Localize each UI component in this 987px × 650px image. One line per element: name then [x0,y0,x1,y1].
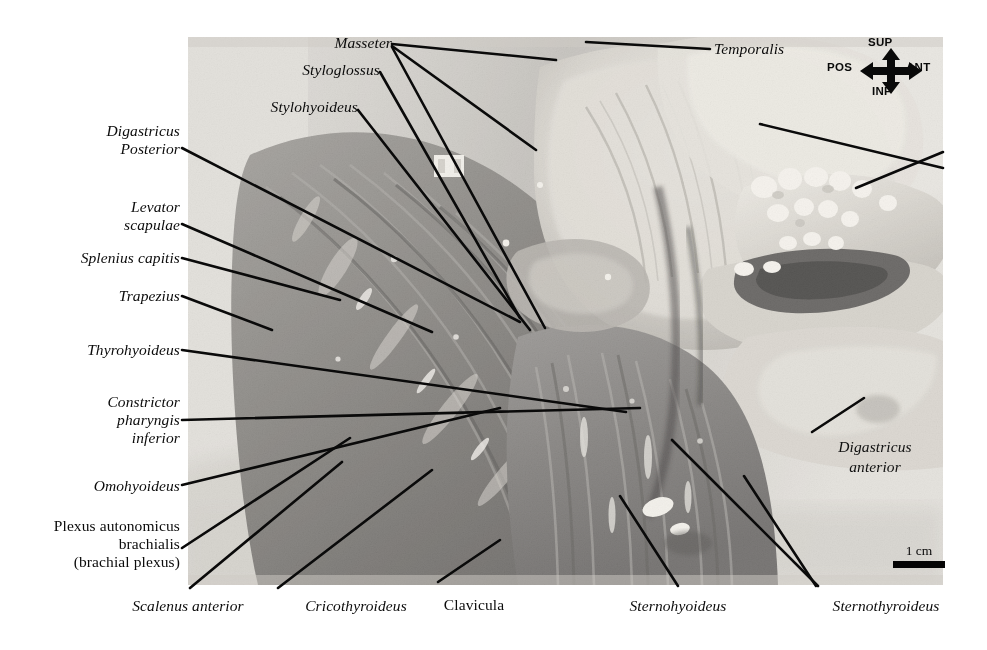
label-plexus-brachialis-line2: brachialis [0,535,180,553]
label-styloglossus: Styloglossus [180,61,380,79]
label-digastricus-posterior-line1: Digastricus [0,122,180,140]
label-thyrohyoideus: Thyrohyoideus [0,341,180,359]
compass-label-superior: SUP [868,36,893,48]
label-constrictor-pharyngis-line3: inferior [0,429,180,447]
orientation-compass: SUP INF POS ANT [836,36,954,102]
label-digastricus-anterior-line1: Digastricus [800,438,950,456]
scale-bar: 1 cm [889,543,949,568]
label-sternohyoideus: Sternohyoideus [570,597,786,615]
compass-label-posterior: POS [827,61,852,73]
label-digastricus-posterior-line2: Posterior [0,140,180,158]
label-sternothyroideus: Sternothyroideus [786,597,986,615]
label-levator-scapulae-line2: scapulae [0,216,180,234]
scale-bar-label: 1 cm [889,543,949,559]
photograph-canvas [188,37,943,585]
anatomical-plate: Masseter Styloglossus Stylohyoideus Temp… [0,0,987,650]
label-clavicula: Clavicula [374,596,574,614]
label-trapezius: Trapezius [0,287,180,305]
label-splenius-capitis: Splenius capitis [0,249,180,267]
scale-bar-rule [893,561,945,568]
label-levator-scapulae-line1: Levator [0,198,180,216]
label-omohyoideus: Omohyoideus [0,477,180,495]
label-digastricus-anterior-line2: anterior [800,458,950,476]
label-temporalis: Temporalis [714,40,784,58]
compass-four-way-arrow-icon [860,48,922,94]
label-constrictor-pharyngis-line2: pharyngis [0,411,180,429]
label-plexus-brachialis-line1: Plexus autonomicus [0,517,180,535]
label-constrictor-pharyngis-line1: Constrictor [0,393,180,411]
label-stylohyoideus: Stylohyoideus [158,98,358,116]
label-plexus-brachialis-line3: (brachial plexus) [0,553,180,571]
dissection-photograph [188,37,943,585]
label-masseter: Masseter [200,34,392,52]
